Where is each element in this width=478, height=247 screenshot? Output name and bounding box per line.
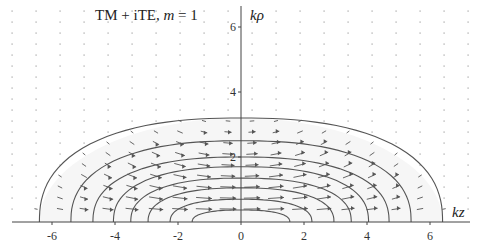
x-tick-label: 2	[301, 229, 307, 243]
y-axis-label: kρ	[250, 7, 264, 23]
y-tick-label: 2	[230, 150, 236, 164]
chart-title: TM + iTE, m = 1	[95, 7, 198, 23]
x-tick-label: -6	[47, 229, 57, 243]
x-tick-label: 6	[427, 229, 433, 243]
field-plot: -6-4-20246246 TM + iTE, m = 1 kρ kz	[0, 0, 478, 247]
x-tick-label: -2	[173, 229, 183, 243]
x-tick-label: -4	[110, 229, 120, 243]
x-axis-label: kz	[452, 204, 465, 220]
x-tick-label: 0	[238, 229, 244, 243]
x-tick-label: 4	[364, 229, 370, 243]
y-tick-label: 6	[230, 20, 236, 34]
y-tick-label: 4	[230, 85, 236, 99]
